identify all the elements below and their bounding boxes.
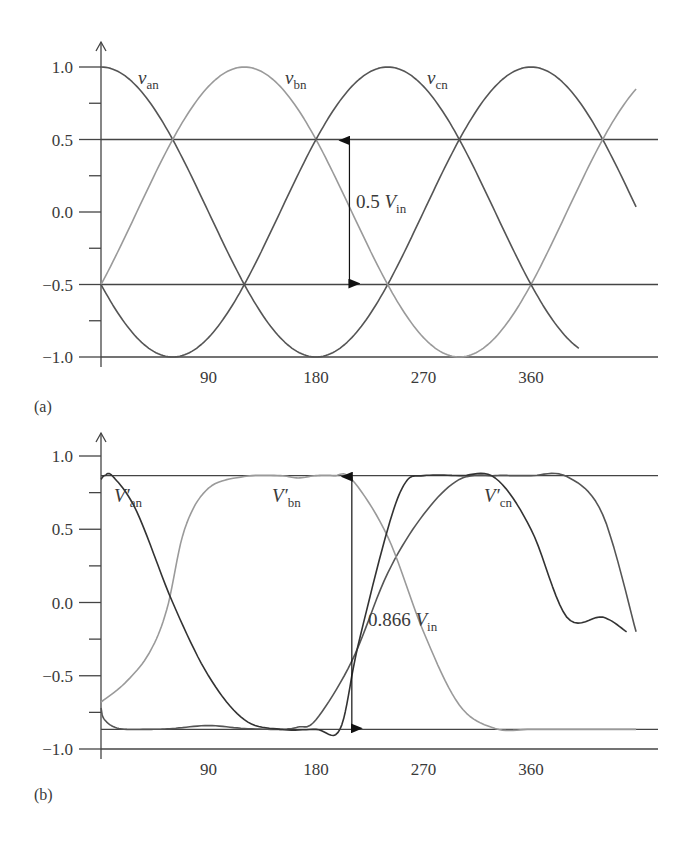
label-v-cn: vcn (427, 67, 448, 92)
y-tick-label: 0.0 (52, 594, 73, 613)
curve-v-prime-cn (101, 473, 627, 735)
label-v-prime-bn: V′bn (272, 485, 301, 510)
figure: 1.00.50.0−0.5−1.090180270360 van vbn vcn… (0, 0, 698, 846)
curve-v-bn (101, 67, 636, 357)
x-tick-label: 90 (200, 760, 217, 779)
label-v-prime-an: V′an (114, 485, 143, 510)
y-tick-label: −1.0 (42, 740, 73, 759)
y-tick-label: 0.5 (52, 520, 73, 539)
curves (101, 67, 636, 357)
label-v-an: van (138, 67, 159, 92)
x-tick-label: 270 (411, 760, 437, 779)
x-tick-label: 360 (518, 368, 544, 387)
curve-v-cn (101, 67, 579, 357)
curves (101, 473, 636, 735)
x-tick-label: 90 (200, 368, 217, 387)
y-tick-label: 1.0 (52, 58, 73, 77)
x-tick-label: 180 (303, 760, 329, 779)
label-v-prime-cn: V′cn (484, 485, 513, 510)
curve-v-an (101, 67, 636, 357)
reference-lines (101, 140, 658, 358)
tick-labels: 1.00.50.0−0.5−1.090180270360 (42, 58, 544, 387)
y-tick-label: 0.0 (52, 203, 73, 222)
y-tick-label: −0.5 (42, 276, 73, 295)
panel-label-b: (b) (34, 786, 53, 804)
label-v-bn: vbn (285, 67, 307, 92)
y-tick-label: −0.5 (42, 667, 73, 686)
y-tick-label: 1.0 (52, 447, 73, 466)
x-tick-label: 180 (303, 368, 329, 387)
panel-label-a: (a) (34, 398, 52, 416)
x-tick-label: 270 (411, 368, 437, 387)
chart-panel-b: 1.00.50.0−0.5−1.090180270360 V′an V′bn V… (34, 433, 658, 804)
arrow-label-a: 0.5 Vin (356, 191, 407, 216)
x-tick-label: 360 (518, 760, 544, 779)
chart-panel-a: 1.00.50.0−0.5−1.090180270360 van vbn vcn… (34, 42, 658, 416)
y-tick-label: 0.5 (52, 131, 73, 150)
arrow-label-b: 0.866 Vin (368, 609, 438, 634)
y-axis (79, 42, 106, 367)
y-tick-label: −1.0 (42, 348, 73, 367)
